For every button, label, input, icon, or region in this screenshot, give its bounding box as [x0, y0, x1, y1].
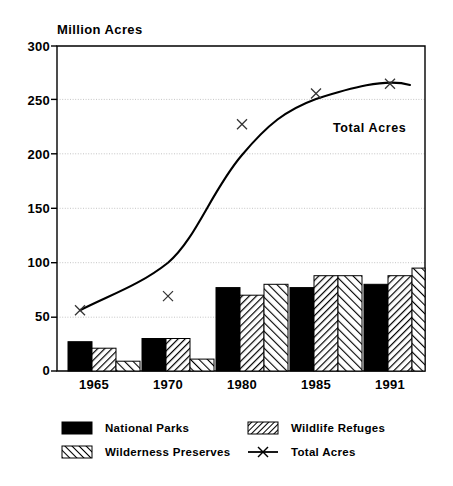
legend-label-national-parks: National Parks — [105, 422, 189, 434]
bar-wildlife-refuges-1991 — [388, 276, 412, 371]
bar-wildlife-refuges-1980 — [240, 295, 264, 371]
bar-group-1965 — [68, 342, 140, 371]
bar-wildlife-refuges-1970 — [166, 339, 190, 372]
bar-national-parks-1965 — [68, 342, 92, 371]
bar-group-1985 — [290, 276, 362, 371]
marker-1985 — [311, 89, 321, 99]
bar-wildlife-refuges-1965 — [92, 348, 116, 371]
bar-wilderness-preserves-1980 — [264, 284, 288, 371]
legend-swatch-wilderness-preserves — [62, 446, 92, 458]
total-acres-annotation: Total Acres — [333, 121, 406, 135]
x-tick-label-1965: 1965 — [59, 377, 129, 392]
x-tick-label-1970: 1970 — [133, 377, 203, 392]
marker-1970 — [163, 291, 173, 301]
legend-swatch-national-parks — [62, 422, 92, 434]
bar-group-1980 — [216, 284, 288, 371]
legend-label-wildlife-refuges: Wildlife Refuges — [291, 422, 385, 434]
bar-group-1970 — [142, 339, 214, 372]
plot-area — [0, 0, 453, 486]
bar-national-parks-1970 — [142, 339, 166, 372]
marker-1965 — [75, 305, 85, 315]
chart-figure: Million Acres 300 250 200 150 100 50 0 — [0, 0, 453, 486]
bar-wilderness-preserves-1965 — [116, 361, 140, 371]
bar-wilderness-preserves-1991 — [412, 268, 425, 371]
legend-label-wilderness-preserves: Wilderness Preserves — [105, 446, 230, 458]
bar-wildlife-refuges-1985 — [314, 276, 338, 371]
legend-label-total-acres: Total Acres — [291, 446, 356, 458]
bar-wilderness-preserves-1985 — [338, 276, 362, 371]
bar-national-parks-1991 — [364, 284, 388, 371]
legend-swatch-total-acres — [248, 447, 278, 457]
y-axis-ticks — [51, 46, 57, 371]
bar-national-parks-1985 — [290, 288, 314, 371]
legend-swatch-wildlife-refuges — [248, 422, 278, 434]
bar-group-1991 — [364, 268, 425, 371]
x-tick-label-1985: 1985 — [281, 377, 351, 392]
x-tick-label-1980: 1980 — [207, 377, 277, 392]
bar-wilderness-preserves-1970 — [190, 359, 214, 371]
x-tick-label-1991: 1991 — [355, 377, 425, 392]
marker-1980 — [237, 119, 247, 129]
bar-national-parks-1980 — [216, 288, 240, 371]
